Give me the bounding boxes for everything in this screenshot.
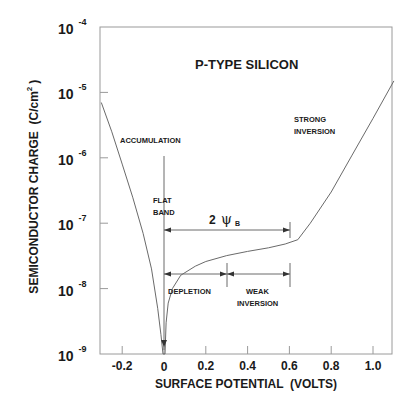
- y-axis-label-close: ): [27, 80, 41, 84]
- y-tick-label: 10-4: [58, 17, 87, 37]
- x-tick-label: 0.2: [197, 359, 214, 373]
- x-axis-ticks: -0.200.20.40.60.81.0: [112, 346, 382, 374]
- chart: 10-410-510-610-710-810-9 -0.200.20.40.60…: [0, 0, 414, 418]
- weak-inversion-label-2: INVERSION: [237, 299, 278, 308]
- strong-inversion-label-1: STRONG: [294, 115, 326, 124]
- y-axis-label-text: SEMICONDUCTOR CHARGE (C/cm: [27, 91, 41, 293]
- arrow-right-icon: [283, 272, 290, 277]
- charge-curve: [101, 81, 394, 354]
- x-tick-label: 0: [161, 360, 168, 374]
- y-tick-label: 10-5: [58, 82, 87, 102]
- weak-inversion-label-1: WEAK: [246, 287, 269, 296]
- arrow-right-icon: [283, 228, 290, 233]
- accumulation-label: ACCUMULATION: [120, 136, 181, 145]
- depletion-label: DEPLETION: [168, 287, 211, 296]
- psi-symbol: ψ: [221, 211, 232, 227]
- x-tick-label: 0.4: [239, 359, 256, 373]
- arrow-right-icon: [220, 272, 227, 277]
- x-tick-label: 0.8: [323, 359, 340, 373]
- y-tick-label: 10-7: [58, 213, 87, 233]
- two-psi-b-number: 2: [209, 213, 216, 227]
- flat-band-label-2: BAND: [153, 208, 175, 217]
- chart-title: P-TYPE SILICON: [195, 57, 298, 72]
- x-tick-label: 0.6: [281, 359, 298, 373]
- arrow-left-icon: [227, 272, 234, 277]
- y-tick-label: 10-6: [58, 148, 87, 168]
- svg-text:SEMICONDUCTOR CHARGE (C/cm2): SEMICONDUCTOR CHARGE (C/cm2): [25, 63, 41, 317]
- y-axis-label: SEMICONDUCTOR CHARGE (C/cm2): [25, 63, 41, 317]
- x-axis-label: SURFACE POTENTIAL (VOLTS): [155, 377, 337, 391]
- strong-inversion-label-2: INVERSION: [294, 127, 335, 136]
- arrow-left-icon: [164, 228, 171, 233]
- x-tick-label: -0.2: [112, 359, 133, 373]
- flat-band-label-1: FLAT: [153, 196, 172, 205]
- arrow-left-icon: [164, 272, 171, 277]
- y-tick-label: 10-8: [58, 279, 87, 299]
- x-tick-label: 1.0: [365, 359, 382, 373]
- y-axis-label-sup: 2: [25, 86, 34, 91]
- psi-subscript: B: [235, 220, 240, 227]
- y-tick-label: 10-9: [58, 344, 87, 364]
